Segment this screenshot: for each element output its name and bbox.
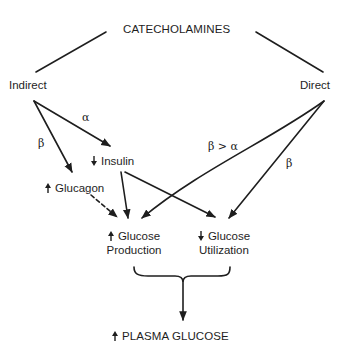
diagram-connectors [0,0,343,348]
node-insulin: Insulin [91,154,134,168]
plasma-glucose-label: PLASMA GLUCOSE [122,330,229,342]
node-glucose-utilization: Glucose Utilization [192,229,256,257]
catecholamine-glucose-diagram: CATECHOLAMINES Indirect Direct α β β > α… [0,0,343,348]
increase-arrow-icon [112,331,118,341]
edge-root-indirect [36,32,106,72]
edge-label-beta-glucagon: β [38,137,44,150]
glucagon-label: Glucagon [55,182,104,194]
insulin-label: Insulin [101,155,134,167]
increase-arrow-icon [45,183,51,193]
glucose-production-line2: Production [102,243,166,257]
edge-label-alpha: α [82,111,89,124]
edge-direct-production [142,101,324,218]
edge-direct-utilization [229,101,324,218]
glucose-utilization-line1: Glucose [208,230,250,242]
branch-indirect: Indirect [9,78,47,92]
glucose-utilization-line2: Utilization [192,243,256,257]
node-glucose-production: Glucose Production [102,229,166,257]
node-plasma-glucose: PLASMA GLUCOSE [112,329,229,343]
branch-direct: Direct [300,78,330,92]
glucose-production-line1: Glucose [118,230,160,242]
root-node-catecholamines: CATECHOLAMINES [123,22,230,36]
edge-insulin-utilization [125,172,215,217]
edge-root-direct [256,32,323,72]
edge-label-beta-gt-alpha: β > α [208,140,238,153]
decrease-arrow-icon [198,231,204,241]
summation-brace [134,267,230,282]
edge-glucagon-production [91,195,117,217]
decrease-arrow-icon [91,156,97,166]
edge-label-beta-utilization: β [286,157,292,170]
node-glucagon: Glucagon [45,181,104,195]
increase-arrow-icon [108,231,114,241]
edge-insulin-production [121,172,128,218]
